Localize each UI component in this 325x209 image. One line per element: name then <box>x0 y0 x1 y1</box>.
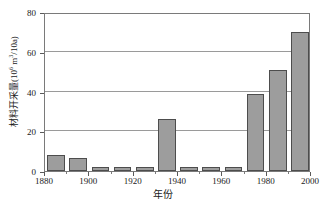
bar <box>158 119 176 171</box>
x-axis-title: 年份 <box>0 189 325 201</box>
bar <box>92 167 110 171</box>
x-axis-minor-tick <box>244 172 245 174</box>
y-axis-title-suffix: /10a) <box>9 36 19 55</box>
y-axis-title-mid: m <box>9 58 19 67</box>
bar <box>180 167 198 171</box>
x-axis-tick-label: 1880 <box>24 176 64 187</box>
x-axis-tick-label: 1900 <box>68 176 108 187</box>
bar <box>114 167 132 171</box>
bar <box>269 70 287 171</box>
x-axis-tick-label: 2000 <box>290 176 325 187</box>
x-axis-minor-tick <box>199 172 200 174</box>
bar <box>69 158 87 171</box>
bar <box>136 167 154 171</box>
x-axis-tick-label: 1980 <box>246 176 286 187</box>
bar <box>47 155 65 171</box>
x-axis-tick-label: 1960 <box>201 176 241 187</box>
y-axis-title-prefix: 材料开采量(10 <box>9 70 19 127</box>
x-axis-minor-tick <box>111 172 112 174</box>
plot-area <box>44 13 310 172</box>
x-axis-minor-tick <box>288 172 289 174</box>
bar <box>247 94 265 171</box>
bar-chart: 020406080 1880190019201940196019802000 年… <box>0 0 325 209</box>
y-axis-title-exp1: 6 <box>8 67 14 70</box>
x-axis-tick-label: 1920 <box>113 176 153 187</box>
bar <box>291 32 309 171</box>
bar <box>225 167 243 171</box>
bar <box>202 167 220 171</box>
y-axis-title: 材料开采量(106 m3/10a) <box>6 7 19 157</box>
x-axis-tick-label: 1940 <box>157 176 197 187</box>
x-axis-minor-tick <box>155 172 156 174</box>
y-axis-title-exp2: 3 <box>8 55 14 58</box>
x-axis-minor-tick <box>66 172 67 174</box>
bars-layer <box>45 14 309 171</box>
